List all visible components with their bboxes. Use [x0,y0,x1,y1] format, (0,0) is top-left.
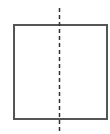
diagram-canvas [0,0,110,134]
square-with-symmetry-line [0,0,110,134]
square-shape [14,25,107,119]
